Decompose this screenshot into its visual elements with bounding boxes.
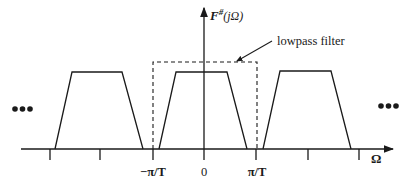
dot — [27, 106, 33, 112]
tick-label-zero: 0 — [201, 165, 207, 179]
tick-label-pi-over-t: π/T — [248, 165, 267, 179]
tick-label-neg-pi-over-t: −π/T — [140, 165, 166, 179]
dot — [20, 106, 26, 112]
filter-label: lowpass filter — [277, 34, 346, 48]
dot — [393, 103, 399, 109]
ellipsis-right — [378, 103, 399, 109]
filter-pointer-arrow — [237, 41, 272, 61]
vertical-axis-label: F#(jΩ) — [209, 7, 243, 23]
spectrum-diagram: lowpass filter F#(jΩ) Ω −π/T 0 π/T — [0, 0, 409, 184]
horizontal-axis-label: Ω — [371, 151, 381, 166]
replica-right — [263, 71, 351, 149]
replica-center — [159, 72, 247, 149]
dot — [378, 103, 384, 109]
dot — [386, 103, 392, 109]
dot — [12, 106, 18, 112]
replica-left — [55, 72, 143, 149]
ellipsis-left — [12, 106, 33, 112]
